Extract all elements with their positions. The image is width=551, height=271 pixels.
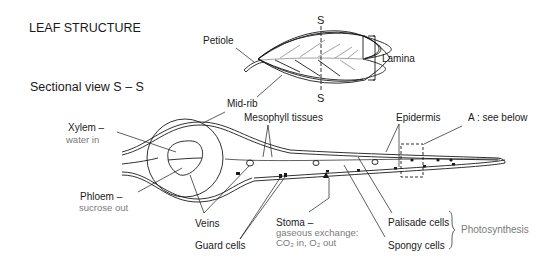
leader-mesophyll-2 bbox=[268, 125, 272, 157]
label-epidermis: Epidermis bbox=[396, 112, 440, 123]
label-spongy: Spongy cells bbox=[388, 240, 445, 251]
label-photosynthesis: Photosynthesis bbox=[461, 224, 529, 235]
diagram-title: LEAF STRUCTURE bbox=[29, 21, 141, 35]
label-detail-ref: A : see below bbox=[468, 112, 528, 123]
leader-midrib-section bbox=[203, 112, 225, 123]
label-petiole: Petiole bbox=[203, 35, 234, 46]
label-xylem: Xylem – bbox=[68, 122, 105, 133]
leaf-upper-edge bbox=[258, 32, 365, 59]
label-xylem-note: water in bbox=[65, 134, 99, 145]
leaf-cross-section bbox=[122, 119, 505, 202]
leader-stoma bbox=[309, 178, 329, 212]
label-veins: Veins bbox=[195, 218, 219, 229]
leader-veins-1 bbox=[190, 175, 204, 213]
leader-midrib bbox=[257, 75, 282, 97]
leader-xylem bbox=[117, 132, 176, 152]
label-guard-cells: Guard cells bbox=[195, 240, 246, 251]
leaf-lower-edge bbox=[258, 59, 365, 83]
label-midrib: Mid-rib bbox=[227, 98, 258, 109]
leader-epidermis-1 bbox=[386, 124, 399, 152]
leader-petiole bbox=[236, 48, 254, 62]
leader-palisade bbox=[358, 157, 392, 213]
section-mark-bottom: S bbox=[317, 92, 324, 104]
leader-veins-2 bbox=[204, 166, 249, 213]
label-phloem-note: sucrose out bbox=[79, 202, 128, 213]
label-phloem: Phloem – bbox=[80, 191, 123, 202]
leader-phloem bbox=[138, 168, 182, 192]
photosynthesis-brace bbox=[449, 211, 455, 249]
label-mesophyll: Mesophyll tissues bbox=[244, 112, 323, 123]
label-palisade: Palisade cells bbox=[388, 217, 449, 228]
section-title: Sectional view S – S bbox=[30, 80, 144, 94]
label-lamina: Lamina bbox=[382, 53, 415, 64]
leader-detail-ref bbox=[424, 126, 462, 144]
leader-mesophyll-1 bbox=[263, 125, 268, 157]
leaf-structure-diagram: LEAF STRUCTURE Sectional view S – S S S bbox=[0, 0, 551, 271]
label-stoma-note-2: CO₂ in, O₂ out bbox=[276, 237, 337, 248]
leader-guard-cells-1 bbox=[240, 178, 280, 239]
section-mark-top: S bbox=[317, 14, 324, 26]
